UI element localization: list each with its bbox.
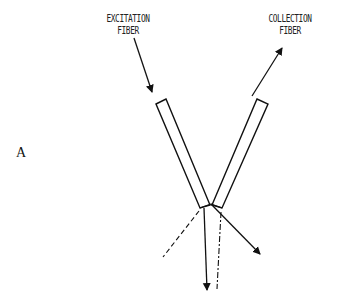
collection-fiber [212, 99, 268, 208]
left-dashed-ray [163, 211, 199, 257]
right-dashdot-ray [217, 212, 221, 289]
collection-output-arrow [252, 48, 282, 96]
fiber-diagram [0, 0, 338, 300]
excitation-input-arrow [134, 38, 152, 92]
scattered-arrow [211, 204, 260, 254]
excitation-tip [200, 204, 211, 208]
transmitted-arrow [204, 208, 207, 290]
excitation-fiber [156, 99, 210, 208]
